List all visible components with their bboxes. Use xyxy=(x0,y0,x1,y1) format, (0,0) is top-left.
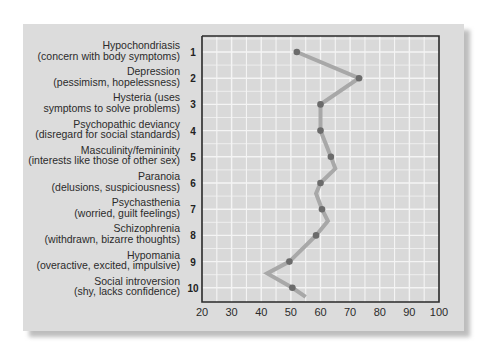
data-point xyxy=(319,206,326,213)
x-tick-label: 40 xyxy=(246,306,276,318)
data-point xyxy=(313,232,320,239)
data-point xyxy=(317,180,324,187)
data-point xyxy=(294,49,301,56)
data-point xyxy=(317,101,324,108)
x-tick-label: 50 xyxy=(276,306,306,318)
x-tick-label: 70 xyxy=(335,306,365,318)
data-point xyxy=(317,127,324,134)
plot-area xyxy=(0,0,489,352)
data-point xyxy=(286,258,293,265)
x-tick-label: 30 xyxy=(217,306,247,318)
data-point xyxy=(289,285,296,292)
x-tick-label: 20 xyxy=(187,306,217,318)
data-point xyxy=(356,75,363,82)
x-tick-label: 100 xyxy=(424,306,454,318)
x-tick-label: 90 xyxy=(394,306,424,318)
x-tick-label: 60 xyxy=(306,306,336,318)
x-tick-label: 80 xyxy=(365,306,395,318)
data-point xyxy=(328,154,335,161)
